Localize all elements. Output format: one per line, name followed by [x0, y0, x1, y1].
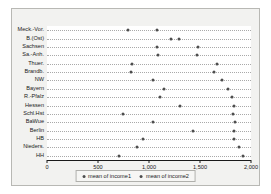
- y-axis-tick-label: HB: [36, 136, 44, 142]
- data-point[interactable]: [156, 29, 159, 32]
- x-axis-tick-label: 2,000: [244, 164, 258, 170]
- data-point[interactable]: [159, 96, 162, 99]
- gridline: [47, 30, 251, 31]
- data-point[interactable]: [233, 104, 236, 107]
- data-point[interactable]: [233, 129, 236, 132]
- y-axis-tick-label: NW: [35, 78, 44, 84]
- legend-marker-icon: [140, 175, 143, 178]
- data-point[interactable]: [196, 45, 199, 48]
- data-point[interactable]: [152, 121, 155, 124]
- data-point[interactable]: [233, 138, 236, 141]
- y-axis-tick-label: Nieders.: [23, 145, 44, 151]
- data-point[interactable]: [157, 54, 160, 57]
- legend-label: mean of income2: [146, 173, 189, 179]
- data-point[interactable]: [179, 104, 182, 107]
- data-point[interactable]: [127, 29, 130, 32]
- gridline: [47, 106, 251, 107]
- gridline: [47, 156, 251, 157]
- x-axis-tick: [98, 160, 99, 163]
- chart-legend: mean of income1mean of income2: [75, 170, 196, 182]
- data-point[interactable]: [212, 71, 215, 74]
- gridline: [47, 147, 251, 148]
- gridline: [47, 47, 251, 48]
- gridline: [47, 72, 251, 73]
- legend-marker-icon: [82, 175, 85, 178]
- data-point[interactable]: [231, 96, 234, 99]
- chart-figure: Meck.-Vor.B.(Ost)SachsenSa.-Anh.Thuer.Br…: [11, 8, 260, 186]
- legend-item[interactable]: mean of income1: [82, 173, 131, 179]
- y-axis-tick-label: HH: [36, 153, 44, 159]
- data-point[interactable]: [215, 62, 218, 65]
- data-point[interactable]: [191, 129, 194, 132]
- y-axis-tick-label: Brandb.: [24, 69, 44, 75]
- data-point[interactable]: [195, 54, 198, 57]
- data-point[interactable]: [238, 146, 241, 149]
- y-axis-tick-label: Bayern: [26, 86, 44, 92]
- data-point[interactable]: [234, 121, 237, 124]
- gridline: [47, 122, 251, 123]
- data-point[interactable]: [242, 154, 245, 157]
- data-point[interactable]: [227, 87, 230, 90]
- gridline: [47, 114, 251, 115]
- gridline: [47, 97, 251, 98]
- x-axis-tick: [200, 160, 201, 163]
- gridline: [47, 55, 251, 56]
- y-axis-tick-label: Berlin: [30, 128, 44, 134]
- x-axis-tick: [149, 160, 150, 163]
- data-point[interactable]: [141, 138, 144, 141]
- data-point[interactable]: [152, 79, 155, 82]
- y-axis-tick-label: B.(Ost): [26, 36, 44, 42]
- data-point[interactable]: [131, 62, 134, 65]
- plot-area: Meck.-Vor.B.(Ost)SachsenSa.-Anh.Thuer.Br…: [47, 26, 251, 160]
- gridline: [47, 139, 251, 140]
- data-point[interactable]: [232, 112, 235, 115]
- x-axis: 05001,0001,5002,000: [47, 160, 251, 161]
- gridline: [47, 39, 251, 40]
- data-point[interactable]: [162, 87, 165, 90]
- y-axis-tick-label: Sa.-Anh.: [22, 53, 44, 59]
- y-axis-tick-label: Thuer.: [28, 61, 44, 67]
- data-point[interactable]: [178, 37, 181, 40]
- y-axis-tick-label: BaWue: [26, 120, 44, 126]
- gridline: [47, 64, 251, 65]
- data-point[interactable]: [121, 112, 124, 115]
- gridline: [47, 131, 251, 132]
- data-point[interactable]: [117, 154, 120, 157]
- x-axis-tick-label: 0: [45, 164, 48, 170]
- data-point[interactable]: [130, 71, 133, 74]
- gridline: [47, 89, 251, 90]
- x-axis-tick: [47, 160, 48, 163]
- data-point[interactable]: [135, 146, 138, 149]
- legend-label: mean of income1: [88, 173, 131, 179]
- y-axis-tick-label: Hessen: [25, 103, 44, 109]
- data-point[interactable]: [220, 79, 223, 82]
- y-axis-tick-label: R.-Pfalz: [24, 94, 44, 100]
- y-axis-tick-label: Meck.-Vor.: [18, 27, 44, 33]
- data-point[interactable]: [169, 37, 172, 40]
- y-axis-tick-label: Schl.Hst: [23, 111, 44, 117]
- y-axis-tick-label: Sachsen: [22, 44, 44, 50]
- legend-item[interactable]: mean of income2: [140, 173, 189, 179]
- x-axis-tick: [251, 160, 252, 163]
- data-point[interactable]: [156, 45, 159, 48]
